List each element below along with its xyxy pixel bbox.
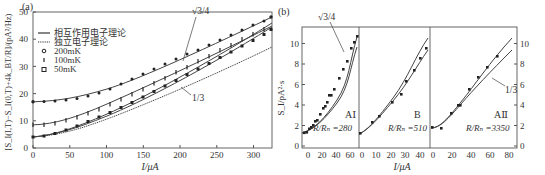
svg-text:30: 30	[19, 62, 29, 72]
svg-text:20: 20	[19, 89, 29, 99]
legend-circle-marker-icon	[42, 49, 46, 53]
svg-text:0: 0	[306, 150, 311, 160]
panel-a-annotation-leader-top	[183, 17, 196, 61]
svg-text:8: 8	[520, 59, 525, 69]
subpanel-a2: AⅡ R/Rₙ =3350	[431, 38, 512, 133]
panel-b-y-ticks-left: 0 2 4 6 8 10	[290, 39, 305, 152]
svg-text:40: 40	[19, 34, 29, 44]
svg-text:0: 0	[520, 141, 525, 151]
subpanel-a1-name: AⅠ	[345, 109, 356, 120]
legend-label-50mk: 50mK	[54, 64, 77, 74]
panel-b-x-axis-label: I/μA	[392, 161, 411, 172]
svg-text:6: 6	[295, 80, 300, 90]
svg-text:40: 40	[467, 150, 477, 160]
svg-text:10: 10	[520, 39, 530, 49]
subpanel-a2-name: AⅡ	[494, 109, 508, 120]
svg-text:40: 40	[416, 150, 426, 160]
svg-text:50: 50	[19, 7, 29, 17]
panel-b: (b) S_I/pA²·s 0 2 4 6 8 10 0 2 4 6 8 10 …	[276, 6, 530, 172]
svg-text:0: 0	[431, 150, 436, 160]
subpanel-b: B R/Rₙ =510	[359, 38, 428, 135]
svg-text:4: 4	[520, 100, 525, 110]
subpanel-a1-ratio: R/Rₙ =280	[312, 123, 352, 133]
subpanel-a1: AⅠ R/Rₙ =280	[302, 35, 359, 134]
svg-text:0: 0	[31, 150, 36, 160]
panel-a-y-axis-label: [S_I(I,T)−S_I(0,T)+4k_BT/R]/(pA²/Hz)	[3, 13, 13, 150]
panel-a-annotation-1-3: 1/3	[192, 93, 204, 103]
svg-text:0: 0	[24, 143, 29, 153]
svg-text:4: 4	[295, 100, 300, 110]
svg-text:60: 60	[486, 150, 496, 160]
panel-b-annotation-1-3: 1/3	[505, 85, 517, 95]
panel-b-annotation-leader-top	[330, 22, 344, 52]
panel-a-x-axis-label: I/μA	[140, 161, 159, 172]
svg-text:0: 0	[295, 141, 300, 151]
subpanel-b-name: B	[414, 109, 421, 120]
svg-text:30: 30	[401, 150, 411, 160]
svg-text:40: 40	[332, 150, 342, 160]
svg-text:2: 2	[295, 121, 300, 131]
panel-a-x-ticks: 0 50 100 150 200 250 300	[31, 145, 261, 160]
svg-text:6: 6	[520, 80, 525, 90]
subpanel-a2-ratio: R/Rₙ =3350	[465, 123, 510, 133]
svg-text:300: 300	[247, 150, 261, 160]
svg-text:20: 20	[448, 150, 458, 160]
svg-text:20: 20	[318, 150, 328, 160]
svg-text:8: 8	[295, 59, 300, 69]
subpanel-b-ratio: R/Rₙ =510	[387, 123, 427, 133]
svg-text:150: 150	[137, 150, 151, 160]
panel-b-label: (b)	[278, 6, 290, 18]
panel-b-annotation-leader-right	[492, 78, 505, 86]
panel-a: (a) [S_I(I,T)−S_I(0,T)+4k_BT/R]/(pA²/Hz)…	[3, 1, 273, 172]
panel-b-y-axis-label: S_I/pA²·s	[276, 80, 286, 116]
svg-text:10: 10	[372, 150, 382, 160]
svg-text:20: 20	[387, 150, 397, 160]
svg-text:250: 250	[210, 150, 224, 160]
panel-b-x-ticks: 0 20 40 60 0 10 20 30 40 0 20 40 60 80	[306, 150, 514, 160]
svg-text:10: 10	[19, 116, 29, 126]
svg-text:80: 80	[505, 150, 515, 160]
svg-text:0: 0	[360, 150, 365, 160]
svg-text:10: 10	[290, 39, 300, 49]
svg-text:50: 50	[65, 150, 75, 160]
svg-text:100: 100	[100, 150, 114, 160]
svg-text:2: 2	[520, 121, 525, 131]
legend-square-marker-icon	[42, 68, 46, 72]
panel-a-annotation-leader-bottom	[181, 87, 191, 95]
panel-a-legend: 相互作用电子理论 独立电子理论 200mK 100mK 50mK	[38, 27, 126, 74]
panel-b-annotation-sqrt3-4: √3/4	[318, 12, 336, 22]
svg-text:200: 200	[173, 150, 187, 160]
svg-text:60: 60	[346, 150, 356, 160]
panel-a-annotation-sqrt3-4: √3/4	[192, 6, 210, 16]
